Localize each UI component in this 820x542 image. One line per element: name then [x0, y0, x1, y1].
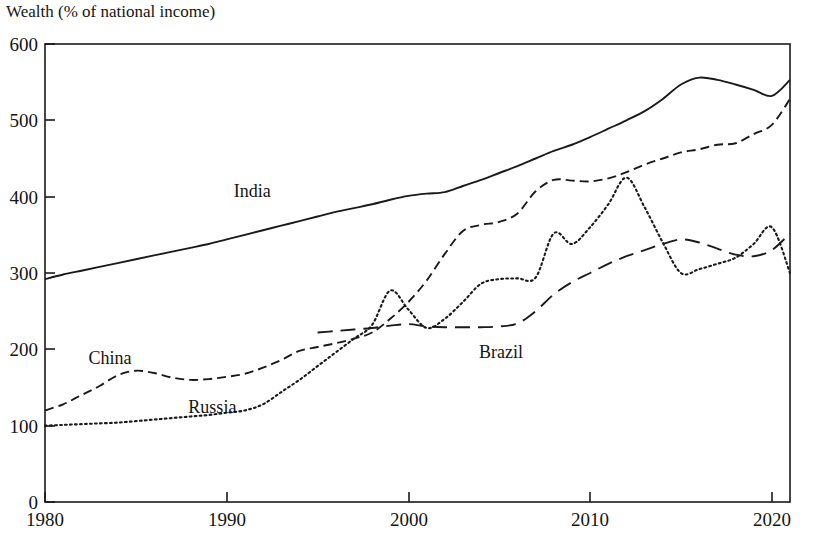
- xtick-label-2000: 2000: [369, 510, 449, 529]
- series-label-russia: Russia: [188, 398, 236, 416]
- y-axis-ticks: [45, 44, 55, 502]
- wealth-line-chart-figure: Wealth (% of national income) 600 500 40…: [0, 0, 820, 542]
- series-line-russia: [45, 178, 790, 426]
- series-line-india: [45, 77, 790, 279]
- ytick-label-400: 400: [0, 188, 38, 207]
- plot-frame: [45, 44, 790, 502]
- ytick-label-200: 200: [0, 340, 38, 359]
- plot-area: [0, 0, 820, 542]
- series-line-brazil: [318, 233, 790, 332]
- series-label-india: India: [234, 182, 271, 200]
- xtick-label-1990: 1990: [187, 510, 267, 529]
- xtick-label-2010: 2010: [550, 510, 630, 529]
- xtick-label-2020: 2020: [732, 510, 812, 529]
- ytick-label-600: 600: [0, 35, 38, 54]
- x-axis-ticks: [45, 492, 772, 502]
- series-layer: [45, 77, 790, 425]
- ytick-label-100: 100: [0, 417, 38, 436]
- xtick-label-1980: 1980: [5, 510, 85, 529]
- series-label-china: China: [88, 349, 131, 367]
- ytick-label-500: 500: [0, 111, 38, 130]
- series-label-brazil: Brazil: [479, 343, 523, 361]
- ytick-label-300: 300: [0, 264, 38, 283]
